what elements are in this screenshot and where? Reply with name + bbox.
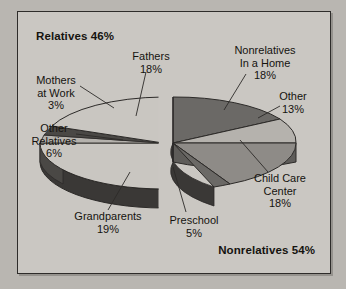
slice-label-child-care-center-line2: Center [236,185,324,198]
slice-label-preschool-value: 5% [154,227,234,240]
slice-label-grandparents-name: Grandparents [54,210,162,223]
slice-label-fathers: Fathers 18% [114,50,188,75]
slice-label-nonrelatives-in-a-home-line1: Nonrelatives [214,44,316,57]
slice-label-mothers-at-work-line1: Mothers [20,74,92,87]
chart-frame: Relatives 46% Nonrelatives 54% Fathers 1… [17,11,331,274]
slice-label-fathers-name: Fathers [114,50,188,63]
slice-label-nonrelatives-in-a-home-line2: In a Home [214,57,316,70]
slice-label-other-name: Other [262,90,324,103]
slice-label-other-relatives: Other Relatives 6% [18,122,90,160]
slice-label-other-value: 13% [262,103,324,116]
slice-label-other-relatives-line2: Relatives [18,135,90,148]
slice-label-other: Other 13% [262,90,324,115]
chart-page: Relatives 46% Nonrelatives 54% Fathers 1… [0,0,346,289]
slice-label-preschool-name: Preschool [154,214,234,227]
slice-label-nonrelatives-in-a-home-value: 18% [214,69,316,82]
slice-label-nonrelatives-in-a-home: Nonrelatives In a Home 18% [214,44,316,82]
group-label-nonrelatives: Nonrelatives 54% [218,244,315,256]
slice-label-preschool: Preschool 5% [154,214,234,239]
slice-label-child-care-center-line1: Child Care [236,172,324,185]
slice-label-grandparents: Grandparents 19% [54,210,162,235]
slice-label-fathers-value: 18% [114,63,188,76]
slice-label-other-relatives-line1: Other [18,122,90,135]
slice-label-child-care-center-value: 18% [236,197,324,210]
slice-label-other-relatives-value: 6% [18,147,90,160]
group-label-relatives: Relatives 46% [36,30,114,42]
slice-label-mothers-at-work-value: 3% [20,99,92,112]
slice-label-mothers-at-work: Mothers at Work 3% [20,74,92,112]
slice-label-mothers-at-work-line2: at Work [20,87,92,100]
slice-label-child-care-center: Child Care Center 18% [236,172,324,210]
slice-label-grandparents-value: 19% [54,223,162,236]
